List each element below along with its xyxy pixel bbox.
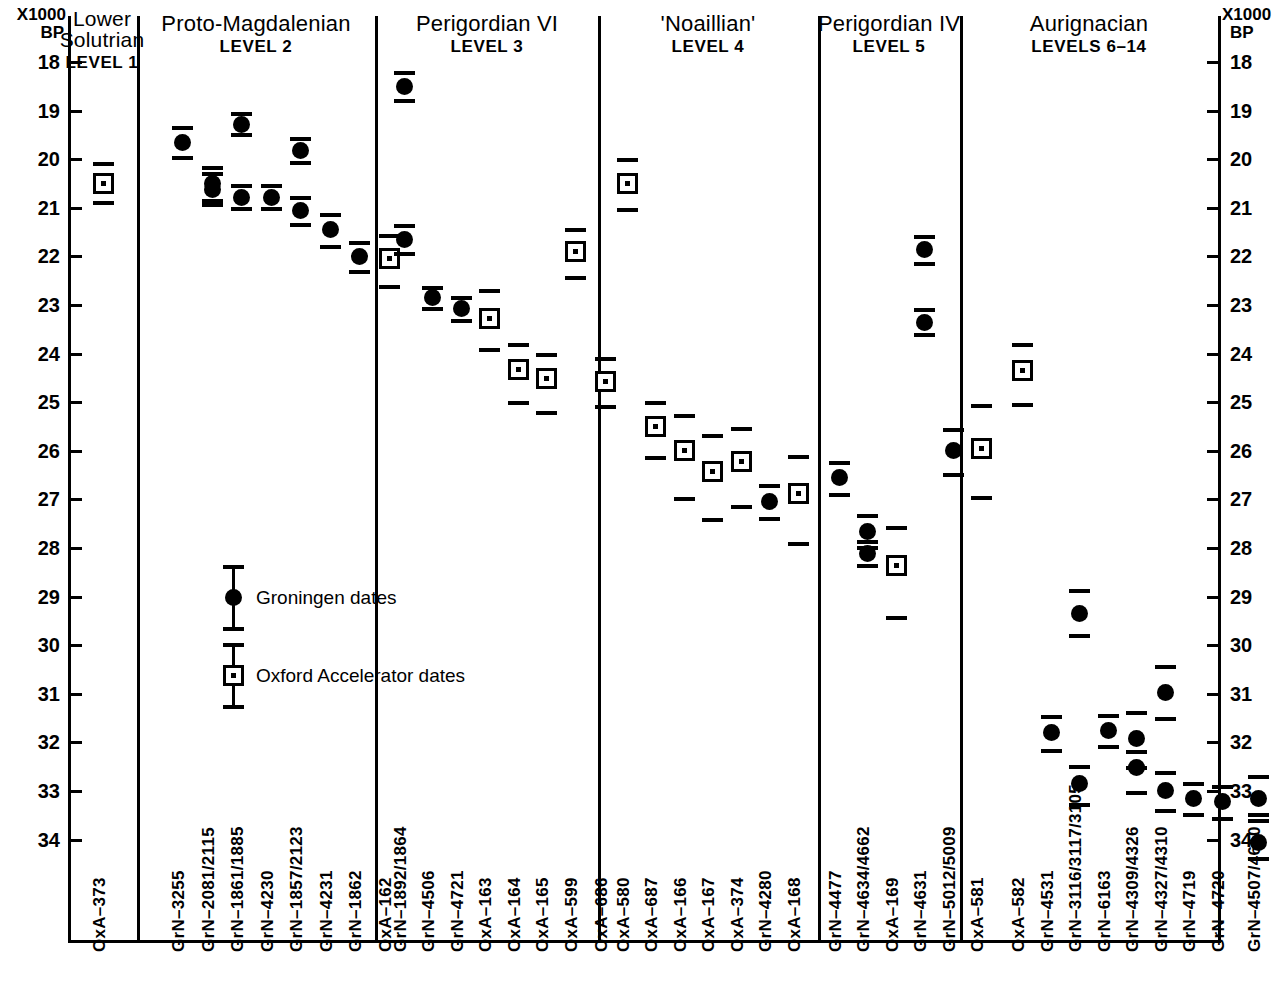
panel-divider-4 xyxy=(818,16,821,940)
tick-left-29 xyxy=(71,596,82,599)
error-cap-lower xyxy=(231,184,252,188)
axis-label-left-24: 24 xyxy=(8,344,60,364)
axis-label-right-22: 22 xyxy=(1230,246,1282,266)
groningen-date-marker xyxy=(1157,684,1174,701)
error-cap-lower xyxy=(1155,665,1176,669)
tick-left-25 xyxy=(71,401,82,404)
error-cap-upper xyxy=(1012,403,1033,407)
panel-divider-1 xyxy=(137,16,140,940)
error-cap-upper xyxy=(261,207,282,211)
tick-right-27 xyxy=(1207,498,1218,501)
tick-right-24 xyxy=(1207,353,1218,356)
error-cap-lower xyxy=(914,308,935,312)
tick-left-23 xyxy=(71,304,82,307)
sample-label: OxA–165 xyxy=(533,877,553,952)
sample-label: GrN–4477 xyxy=(826,870,846,952)
panel-title-6: Aurignacian xyxy=(939,12,1239,35)
error-cap-lower xyxy=(261,184,282,188)
groningen-date-marker xyxy=(263,189,280,206)
error-cap-lower xyxy=(565,228,586,232)
error-cap-upper xyxy=(349,270,370,274)
error-cap-lower xyxy=(290,137,311,141)
groningen-date-marker xyxy=(1128,759,1145,776)
sample-label: OxA–163 xyxy=(476,877,496,952)
tick-left-34 xyxy=(71,839,82,842)
tick-right-25 xyxy=(1207,401,1218,404)
groningen-date-marker xyxy=(916,314,933,331)
error-cap-upper xyxy=(394,99,415,103)
axis-label-right-25: 25 xyxy=(1230,392,1282,412)
error-cap-lower xyxy=(674,414,695,418)
oxford-date-marker xyxy=(886,555,907,576)
error-cap-upper xyxy=(829,493,850,497)
error-cap-upper xyxy=(857,564,878,568)
sample-label: GrN–4230 xyxy=(258,870,278,952)
error-cap-upper xyxy=(565,276,586,280)
error-cap-upper xyxy=(943,473,964,477)
sample-label: GrN–4634/4662 xyxy=(854,826,874,952)
error-cap-upper xyxy=(394,252,415,256)
sample-label: OxA–580 xyxy=(614,877,634,952)
oxford-date-marker xyxy=(674,440,695,461)
tick-left-30 xyxy=(71,644,82,647)
sample-label: GrN–4719 xyxy=(1180,870,1200,952)
axis-label-right-24: 24 xyxy=(1230,344,1282,364)
groningen-date-marker xyxy=(916,241,933,258)
error-cap-lower xyxy=(320,213,341,217)
axis-label-right-23: 23 xyxy=(1230,295,1282,315)
error-cap-lower xyxy=(886,526,907,530)
oxford-date-marker xyxy=(1012,360,1033,381)
tick-right-29 xyxy=(1207,596,1218,599)
error-cap-upper xyxy=(172,156,193,160)
axis-label-right-29: 29 xyxy=(1230,587,1282,607)
oxford-date-marker xyxy=(731,451,752,472)
groningen-date-marker xyxy=(1100,722,1117,739)
sample-label: GrN–4506 xyxy=(419,870,439,952)
tick-left-26 xyxy=(71,450,82,453)
panel-divider-3 xyxy=(598,16,601,940)
error-cap-upper xyxy=(202,203,223,207)
error-cap-upper xyxy=(320,245,341,249)
tick-left-31 xyxy=(71,693,82,696)
axis-label-left-34: 34 xyxy=(8,830,60,850)
tick-left-32 xyxy=(71,741,82,744)
sample-label: GrN–4327/4310 xyxy=(1152,826,1172,952)
axis-label-right-30: 30 xyxy=(1230,635,1282,655)
axis-label-right-21: 21 xyxy=(1230,198,1282,218)
error-cap-upper xyxy=(536,411,557,415)
legend-label-oxford: Oxford Accelerator dates xyxy=(256,665,465,687)
groningen-date-marker xyxy=(1185,790,1202,807)
axis-label-left-22: 22 xyxy=(8,246,60,266)
error-cap-upper xyxy=(1248,813,1269,817)
tick-right-26 xyxy=(1207,450,1218,453)
sample-label: GrN–4720 xyxy=(1209,870,1229,952)
error-cap-upper xyxy=(451,319,472,323)
groningen-date-marker xyxy=(322,221,339,238)
sample-label: GrN–1857/2123 xyxy=(287,826,307,952)
error-cap-lower xyxy=(1069,765,1090,769)
sample-label: GrN–3116/3117/3105 xyxy=(1066,784,1086,952)
error-cap-upper xyxy=(93,201,114,205)
error-cap-upper xyxy=(231,133,252,137)
error-cap-lower xyxy=(1248,775,1269,779)
sample-label: GrN–3255 xyxy=(169,870,189,952)
error-cap-lower xyxy=(1212,785,1233,789)
error-cap-upper xyxy=(290,223,311,227)
error-cap-upper xyxy=(479,348,500,352)
error-cap-upper xyxy=(674,497,695,501)
error-cap-upper xyxy=(422,307,443,311)
sample-label: GrN–4231 xyxy=(317,870,337,952)
oxford-date-marker xyxy=(508,359,529,380)
error-cap-lower xyxy=(536,353,557,357)
error-cap-upper xyxy=(617,208,638,212)
error-cap-lower xyxy=(394,224,415,228)
oxford-marker-icon xyxy=(223,665,244,686)
oxford-date-marker xyxy=(702,461,723,482)
tick-left-20 xyxy=(71,158,82,161)
axis-label-left-28: 28 xyxy=(8,538,60,558)
groningen-date-marker xyxy=(761,493,778,510)
error-cap-lower xyxy=(645,401,666,405)
tick-right-18 xyxy=(1207,61,1218,64)
sample-label: GrN–4631 xyxy=(911,870,931,952)
groningen-date-marker xyxy=(859,523,876,540)
